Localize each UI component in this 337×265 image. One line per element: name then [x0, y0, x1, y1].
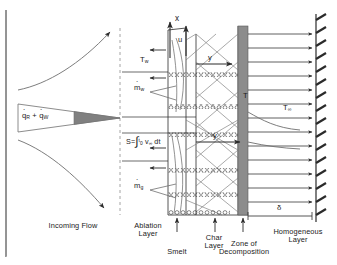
- temperature-profile-curve: [248, 112, 300, 149]
- mass-flux-water-label: mw: [134, 84, 144, 93]
- wall-temperature-label: Tw: [140, 56, 149, 65]
- delta-extent: [248, 212, 312, 220]
- interface-temperature-label: T: [243, 92, 248, 101]
- char-layer-crosshatch: [186, 34, 238, 215]
- right-wall-hatching: [316, 14, 326, 222]
- freestream-temperature-label: T∞: [283, 104, 292, 113]
- zone-of-decomposition-bar: [238, 26, 248, 215]
- caption-homogeneous-line2: Layer: [289, 235, 308, 244]
- ablation-schematic-figure: qR + qW x u y y Tw T T∞ mw mg S=∫t0 v∞ d…: [0, 0, 337, 265]
- surface-incoming-arrows: [150, 50, 166, 168]
- caption-ablation-layer: Ablation Layer: [126, 222, 170, 239]
- homogeneous-layer-lines: [248, 34, 312, 202]
- caption-homogeneous-layer: Homogeneous Layer: [264, 228, 332, 245]
- heat-flux-label: qR + qW: [22, 112, 48, 121]
- y-axis-label-lower: y: [213, 132, 217, 141]
- caption-zone-line2: Decomposition: [219, 247, 269, 256]
- caption-ablation-layer-line2: Layer: [139, 229, 158, 238]
- caption-smelt: Smelt: [160, 248, 194, 256]
- y-axis-label-upper: y: [208, 54, 212, 63]
- delta-label: δ: [277, 204, 281, 213]
- recession-formula: S=∫t0 v∞ dt: [126, 138, 161, 147]
- ablation-layer-streaks: [172, 38, 183, 214]
- caption-incoming-flow: Incoming Flow: [30, 222, 116, 230]
- mass-flux-gas-label: mg: [134, 182, 143, 191]
- x-axis-label: x: [175, 14, 179, 23]
- caption-pointer-arrows: [177, 218, 243, 232]
- velocity-label: u: [178, 36, 182, 45]
